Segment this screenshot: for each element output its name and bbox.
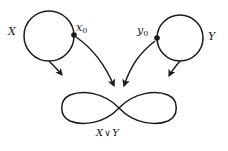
map-arrow-x-to-wedge bbox=[76, 37, 114, 86]
label-wedge-operator: ∨ bbox=[104, 128, 112, 138]
label-basepoint-x0-subscript: 0 bbox=[82, 26, 87, 35]
label-basepoint-y0-subscript: 0 bbox=[143, 29, 148, 38]
label-basepoint-x0: x0 bbox=[76, 22, 87, 35]
label-wedge-sum: X∨Y bbox=[96, 128, 120, 138]
circle-y bbox=[157, 15, 203, 61]
circle-x bbox=[24, 11, 74, 61]
short-arrow-y bbox=[169, 61, 180, 76]
basepoint-dot-y0 bbox=[154, 35, 160, 41]
label-space-x: X bbox=[8, 26, 16, 37]
figure-eight-left-lobe bbox=[62, 93, 119, 124]
label-space-y: Y bbox=[208, 31, 215, 42]
label-basepoint-y0: y0 bbox=[137, 25, 148, 38]
map-arrow-y-to-wedge bbox=[124, 41, 155, 86]
short-arrow-x bbox=[49, 61, 62, 75]
figure-eight-right-lobe bbox=[119, 93, 176, 124]
label-wedge-right: Y bbox=[112, 127, 120, 138]
topology-figure: X Y x0 y0 X∨Y bbox=[0, 0, 228, 151]
